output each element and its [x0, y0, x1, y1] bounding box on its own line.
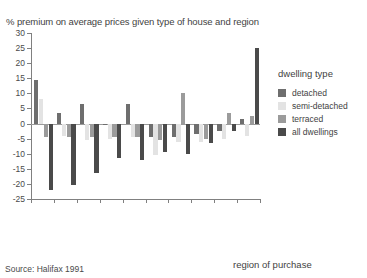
y-axis-tick-label: -5 — [17, 134, 25, 144]
bar — [117, 124, 121, 159]
bar — [186, 124, 190, 154]
y-axis-tick-label: -25 — [13, 194, 25, 204]
y-axis-tick — [27, 108, 31, 109]
legend-swatch-icon — [278, 102, 286, 110]
bar — [67, 124, 71, 138]
y-axis-tick — [27, 63, 31, 64]
bar — [135, 124, 139, 138]
bar — [153, 124, 157, 156]
legend-item-label: semi-detached — [292, 101, 348, 111]
y-axis-tick — [27, 48, 31, 49]
x-axis-tick — [100, 199, 101, 203]
y-axis-tick-label: 10 — [16, 88, 25, 98]
bar — [176, 124, 180, 142]
y-axis-tick-label: -10 — [13, 149, 25, 159]
bar — [39, 99, 43, 123]
bar — [62, 124, 66, 136]
legend-item-label: all dwellings — [292, 127, 338, 137]
legend-title: dwelling type — [278, 68, 364, 79]
bar — [222, 124, 226, 139]
legend-item[interactable]: detached — [278, 88, 364, 98]
y-axis-tick — [27, 184, 31, 185]
bar — [163, 124, 167, 153]
bar — [199, 124, 203, 142]
bar — [172, 124, 176, 138]
bar — [158, 124, 162, 141]
x-axis-tick — [214, 199, 215, 203]
bar — [217, 124, 221, 132]
y-axis-tick — [27, 169, 31, 170]
bar — [103, 124, 107, 125]
x-axis-tick — [237, 199, 238, 203]
source-note: Source: Halifax 1991 — [5, 264, 84, 274]
y-axis-tick-label: 5 — [20, 103, 25, 113]
legend-item[interactable]: all dwellings — [278, 127, 364, 137]
y-axis-tick — [27, 33, 31, 34]
y-axis-tick-label: 20 — [16, 58, 25, 68]
y-axis-tick-label: 30 — [16, 28, 25, 38]
y-axis-tick — [27, 93, 31, 94]
y-axis-tick-label: 15 — [16, 73, 25, 83]
legend-item[interactable]: terraced — [278, 114, 364, 124]
bar — [149, 124, 153, 138]
legend-item-label: terraced — [292, 114, 323, 124]
legend: dwelling type detachedsemi-detachedterra… — [278, 68, 364, 140]
bar — [181, 93, 185, 123]
x-axis-title: region of purchase — [233, 259, 312, 270]
bar — [131, 124, 135, 138]
x-axis-tick — [146, 199, 147, 203]
y-axis-tick-label: -20 — [13, 179, 25, 189]
y-axis-tick — [27, 154, 31, 155]
bar — [108, 124, 112, 139]
bar — [126, 104, 130, 124]
bar — [112, 124, 116, 138]
plot-area: 302520151050-5-10-15-20-25 — [31, 33, 260, 199]
chart-title: % premium on average prices given type o… — [6, 16, 259, 27]
bar — [232, 124, 236, 132]
legend-item[interactable]: semi-detached — [278, 101, 364, 111]
bar — [57, 113, 61, 124]
bar — [209, 124, 213, 144]
bar — [44, 124, 48, 138]
legend-swatch-icon — [278, 89, 286, 97]
y-axis-tick — [27, 78, 31, 79]
bar — [240, 119, 244, 124]
bar — [250, 116, 254, 124]
bar — [34, 80, 38, 124]
x-axis-tick — [260, 199, 261, 203]
bar — [194, 124, 198, 135]
y-axis-tick-label: 0 — [20, 119, 25, 129]
x-axis-tick — [168, 199, 169, 203]
legend-item-label: detached — [292, 88, 327, 98]
y-axis-tick — [27, 139, 31, 140]
bar — [255, 48, 259, 123]
x-axis-tick — [54, 199, 55, 203]
bar — [90, 124, 94, 138]
bar — [94, 124, 98, 174]
y-axis-tick-label: 25 — [16, 43, 25, 53]
bar — [49, 124, 53, 190]
bar — [85, 124, 89, 141]
x-axis-tick — [191, 199, 192, 203]
legend-swatch-icon — [278, 128, 286, 136]
bar — [245, 124, 249, 136]
y-axis-tick-label: -15 — [13, 164, 25, 174]
x-axis-tick — [77, 199, 78, 203]
x-axis-tick — [123, 199, 124, 203]
bar — [140, 124, 144, 160]
bar — [227, 113, 231, 124]
bar — [204, 124, 208, 139]
legend-swatch-icon — [278, 115, 286, 123]
bar — [80, 104, 84, 124]
x-axis-tick — [31, 199, 32, 203]
chart-container: % premium on average prices given type o… — [0, 0, 367, 278]
bar — [71, 124, 75, 186]
